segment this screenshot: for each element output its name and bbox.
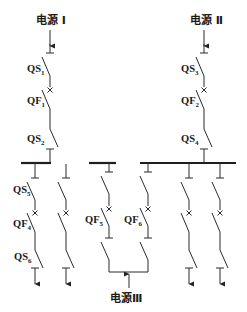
- incoming-feeder-3: 电源Ⅲ: [109, 272, 148, 305]
- breaker-QF6-contact-x-icon: [146, 207, 151, 212]
- label-QF4: QF4: [13, 218, 32, 232]
- disconnector-blade: [140, 176, 148, 194]
- outgoing-feeder-4: [212, 163, 228, 284]
- single-line-diagram: 电源 Ⅰ QS1 QF1 QS2 电源 Ⅱ QS3 QF2 QS: [0, 0, 247, 312]
- disconnector-blade: [58, 182, 66, 200]
- source-3-label: 电源Ⅲ: [110, 291, 142, 305]
- incoming-feeder-2: 电源 Ⅱ QS3 QF2 QS4: [181, 13, 223, 163]
- disconnector-blade: [101, 242, 109, 260]
- disconnector-blade: [212, 182, 220, 200]
- breaker-QF1-contact-x-icon: [48, 88, 53, 93]
- label-QF6: QF6: [124, 214, 143, 228]
- source-1-label: 电源 Ⅰ: [36, 13, 66, 27]
- breaker-contact-x-icon: [64, 211, 69, 216]
- source-2-label: 电源 Ⅱ: [190, 13, 223, 27]
- tie-feeder-QF6: QF6: [124, 163, 152, 272]
- breaker-QF4-contact-x-icon: [33, 211, 38, 216]
- label-QS1: QS1: [27, 63, 45, 77]
- incoming-feeder-1: 电源 Ⅰ QS1 QF1 QS2: [27, 13, 66, 163]
- label-QF2: QF2: [181, 95, 200, 109]
- breaker-contact-x-icon: [187, 211, 192, 216]
- disconnector-blade: [101, 176, 109, 194]
- label-QS6: QS6: [14, 251, 32, 265]
- disconnector-blade: [140, 242, 148, 260]
- label-QF5: QF5: [85, 214, 104, 228]
- disconnector-blade: [220, 250, 228, 268]
- tie-feeder-QF5: QF5: [85, 163, 113, 272]
- label-QS3: QS3: [181, 63, 199, 77]
- outgoing-feeder-2: [58, 164, 74, 284]
- label-QF1: QF1: [27, 95, 46, 109]
- breaker-QF2-contact-x-icon: [202, 88, 207, 93]
- breaker-blade: [181, 213, 189, 232]
- label-QS4: QS4: [181, 133, 199, 147]
- label-QS2: QS2: [27, 133, 45, 147]
- disconnector-blade: [189, 250, 197, 268]
- breaker-QF5-contact-x-icon: [107, 207, 112, 212]
- outgoing-feeder-1: QS5 QF4 QS6: [13, 163, 43, 284]
- breaker-blade: [58, 213, 66, 232]
- disconnector-blade: [181, 182, 189, 200]
- disconnector-QS6-blade: [35, 250, 43, 268]
- outgoing-feeder-3: [181, 163, 197, 284]
- disconnector-QS4-blade: [204, 129, 212, 147]
- breaker-contact-x-icon: [218, 211, 223, 216]
- breaker-blade: [212, 213, 220, 232]
- disconnector-blade: [66, 250, 74, 268]
- disconnector-QS2-blade: [50, 129, 58, 147]
